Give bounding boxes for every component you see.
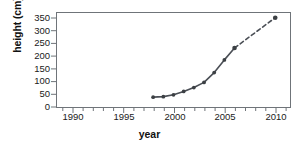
chart-figure: height (cm) year 350 300 250 200 150 100… [0, 0, 299, 152]
y-axis-ticks [51, 18, 57, 107]
data-point [151, 95, 155, 99]
data-point [192, 86, 196, 90]
plot-canvas [0, 0, 299, 152]
data-point [273, 15, 278, 20]
data-point [182, 90, 186, 94]
data-point [212, 71, 216, 75]
data-point [222, 58, 226, 62]
series-markers [151, 15, 277, 99]
data-point [161, 95, 165, 99]
series-projected-line [235, 18, 276, 48]
data-point [172, 93, 176, 97]
data-point [202, 81, 206, 85]
data-point [232, 46, 237, 51]
series-measured-line [153, 48, 234, 97]
x-axis-minor-ticks [63, 108, 286, 114]
